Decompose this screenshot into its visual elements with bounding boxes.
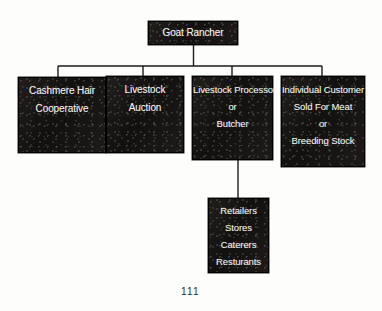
node-label-line: or <box>193 98 272 115</box>
node-livestock-processor-butcher[interactable]: Livestock Processor or Butcher <box>192 76 273 160</box>
node-label-line: Breeding Stock <box>282 132 364 149</box>
page-number: 111 <box>181 286 200 298</box>
node-label-line: Livestock Processor <box>193 81 272 98</box>
node-label-line: Goat Rancher <box>149 27 237 39</box>
node-label-line: Cooperative <box>19 100 105 118</box>
node-label-line: Caterers <box>209 236 268 253</box>
node-goat-rancher[interactable]: Goat Rancher <box>148 21 238 45</box>
node-livestock-auction[interactable]: Livestock Auction <box>106 76 184 153</box>
node-label-line: Stores <box>209 219 268 236</box>
node-label-line: Livestock <box>107 81 183 99</box>
node-label-line: Cashmere Hair <box>19 82 105 100</box>
node-label-line: Individual Customer <box>282 81 364 98</box>
node-label-line: Sold For Meat <box>282 98 364 115</box>
node-cashmere-hair-cooperative[interactable]: Cashmere Hair Cooperative <box>18 77 106 153</box>
node-individual-customer[interactable]: Individual Customer Sold For Meat or Bre… <box>281 76 365 167</box>
node-label-line: Retailers <box>209 202 268 219</box>
node-retailers-stores-caterers-resturants[interactable]: Retailers Stores Caterers Resturants <box>208 198 269 273</box>
node-label-line: Resturants <box>209 253 268 270</box>
node-label-line: Butcher <box>193 115 272 132</box>
node-label-line: or <box>282 115 364 132</box>
node-label-line: Auction <box>107 99 183 117</box>
diagram-canvas: Goat Rancher Cashmere Hair Cooperative L… <box>0 0 382 311</box>
